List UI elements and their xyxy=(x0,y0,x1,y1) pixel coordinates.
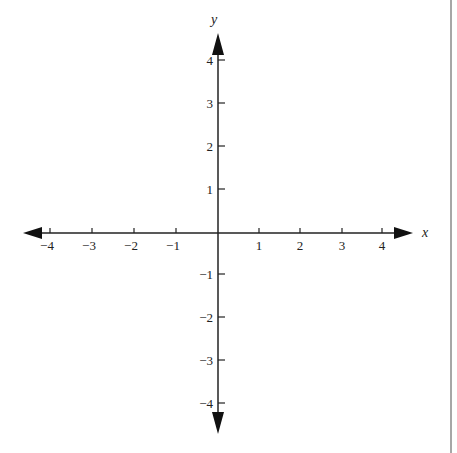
x-tick-label: −4 xyxy=(40,238,54,253)
y-tick-label: 3 xyxy=(207,96,214,111)
y-tick-label: −4 xyxy=(199,396,213,411)
x-tick-label: 2 xyxy=(297,238,304,253)
y-tick-label: −2 xyxy=(199,310,213,325)
y-tick-label: −1 xyxy=(199,267,213,282)
x-axis-tick-labels: −4 −3 −2 −1 1 2 3 4 xyxy=(40,238,386,253)
x-tick-label: 1 xyxy=(256,238,263,253)
y-tick-label: 4 xyxy=(207,53,214,68)
y-axis-up-arrow-icon xyxy=(212,33,224,55)
y-axis-down-arrow-icon xyxy=(212,412,224,434)
x-tick-label: −2 xyxy=(124,238,138,253)
x-tick-label: 3 xyxy=(339,238,346,253)
x-axis-right-arrow-icon xyxy=(394,227,413,239)
x-axis-label: x xyxy=(421,225,429,240)
y-tick-label: 2 xyxy=(207,139,214,154)
y-tick-label: 1 xyxy=(207,182,214,197)
y-tick-label: −3 xyxy=(199,353,213,368)
y-axis-label: y xyxy=(209,12,218,27)
x-tick-label: −1 xyxy=(166,238,180,253)
coordinate-plane-svg: x y −4 −3 −2 −1 1 2 3 4 xyxy=(0,0,457,453)
y-axis-ticks xyxy=(218,60,225,403)
x-tick-label: 4 xyxy=(379,238,386,253)
coordinate-plane: x y −4 −3 −2 −1 1 2 3 4 xyxy=(0,0,457,453)
y-axis-tick-labels: 4 3 2 1 −1 −2 −3 −4 xyxy=(199,53,213,411)
x-tick-label: −3 xyxy=(82,238,96,253)
